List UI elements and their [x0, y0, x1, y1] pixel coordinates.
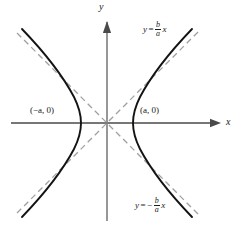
asymptote-negative-slope	[17, 33, 200, 216]
positive-asymptote-equals: =	[149, 25, 154, 34]
x-axis	[11, 119, 221, 127]
negative-asymptote-label: y = − b a x	[135, 197, 165, 214]
positive-asymptote-lhs: y	[143, 25, 147, 34]
figure-canvas	[0, 0, 243, 232]
positive-asymptote-denominator: a	[155, 29, 161, 38]
left-vertex-label: (−a, 0)	[30, 106, 54, 115]
y-axis-label: y	[99, 2, 103, 12]
y-axis-arrowhead	[103, 21, 111, 33]
positive-asymptote-fraction: b a	[155, 21, 161, 38]
negative-asymptote-equals: =	[141, 201, 146, 210]
negative-asymptote-variable: x	[161, 201, 165, 210]
positive-asymptote-numerator: b	[155, 21, 161, 29]
positive-asymptote-variable: x	[163, 25, 167, 34]
positive-asymptote-label: y = b a x	[143, 21, 167, 38]
x-axis-arrowhead	[210, 119, 221, 127]
negative-asymptote-numerator: b	[154, 197, 160, 205]
x-axis-label: x	[226, 117, 230, 127]
negative-asymptote-sign: −	[147, 201, 152, 210]
asymptote-positive-slope	[17, 30, 200, 213]
right-vertex-label: (a, 0)	[140, 106, 159, 115]
hyperbola-figure: y x (−a, 0) (a, 0) y = b a x y = − b a x	[0, 0, 243, 232]
negative-asymptote-lhs: y	[135, 201, 139, 210]
negative-asymptote-fraction: b a	[154, 197, 160, 214]
negative-asymptote-denominator: a	[154, 205, 160, 214]
